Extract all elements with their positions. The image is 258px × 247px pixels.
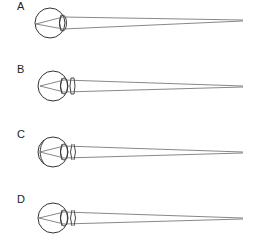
light-rays bbox=[39, 212, 243, 224]
eyeball-icon bbox=[38, 203, 68, 233]
eye-diagram-b bbox=[0, 62, 258, 126]
panel-c: C bbox=[0, 127, 258, 191]
panel-b: B bbox=[0, 62, 258, 126]
eye-diagram-a bbox=[0, 0, 258, 60]
eyeball-icon bbox=[38, 137, 68, 167]
panel-a: A bbox=[0, 0, 258, 60]
eye-diagram-c bbox=[0, 127, 258, 191]
panel-d: D bbox=[0, 192, 258, 247]
eye-diagram-d bbox=[0, 192, 258, 247]
light-rays bbox=[36, 17, 243, 29]
eyeball-icon bbox=[38, 71, 68, 101]
